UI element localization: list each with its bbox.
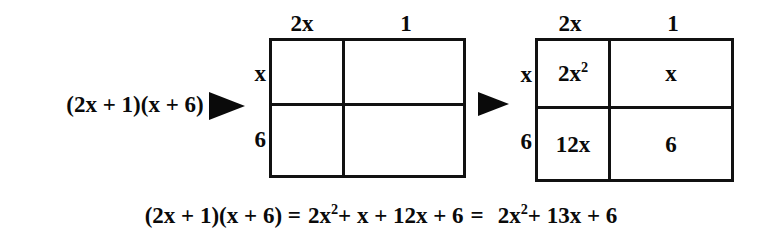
grid2-cell-bottom-right[interactable]: 6 [611,109,731,179]
grid2-cell-top-left-text: 2x2 [558,62,588,85]
grid2-row-label-1: 6 [506,130,532,154]
result-equation: (2x + 1)(x + 6) =2x2+ x + 12x + 6=2x2+ 1… [0,200,762,232]
grid2-cell-bottom-left-text: 12x [556,133,591,156]
grid2-row-label-0: x [506,63,532,87]
grid1-row-label-1: 6 [240,128,266,152]
grid2-column-label-1: 1 [612,12,734,36]
grid2-cell-bottom-left[interactable]: 12x [538,109,608,179]
filled-area-model-grid[interactable]: 2x2 x 12x 6 [535,38,734,182]
worksheet-canvas: (2x + 1)(x + 6) 2x 1 x 6 2x 1 x 6 [0,0,762,246]
grid1-cell-bottom-left[interactable] [272,106,342,175]
grid1-cell-top-right[interactable] [345,41,463,103]
equation-middle-term: 2x2+ x + 12x + 6 [308,203,464,228]
source-expression: (2x + 1)(x + 6) [60,90,210,120]
grid1-column-label-0: 2x [266,12,338,36]
grid1-cell-bottom-right[interactable] [345,106,463,175]
grid2-cell-top-left[interactable]: 2x2 [538,41,608,106]
equation-lhs: (2x + 1)(x + 6) = [145,203,301,228]
grid2-cell-top-right[interactable]: x [611,41,731,106]
grid2-cell-top-right-text: x [665,62,677,85]
grid1-column-label-1: 1 [346,12,466,36]
blank-area-model-grid[interactable] [269,38,466,178]
equation-result-term: 2x2+ 13x + 6 [498,203,618,228]
grid1-cell-top-left[interactable] [272,41,342,103]
grid2-cell-bottom-right-text: 6 [665,133,677,156]
equation-equals-sign: = [471,203,484,228]
grid1-row-label-0: x [240,62,266,86]
grid2-column-label-0: 2x [532,12,608,36]
